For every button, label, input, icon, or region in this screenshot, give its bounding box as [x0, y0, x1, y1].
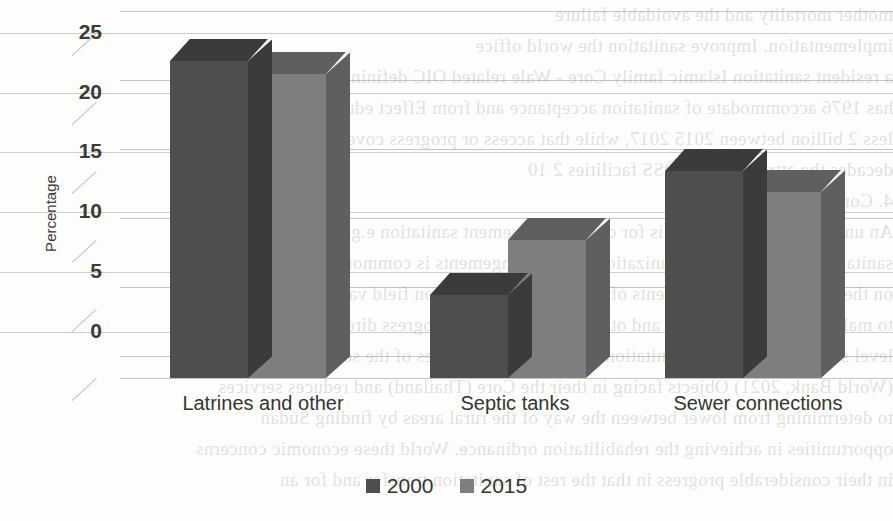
- legend-item-2015: 2015: [460, 474, 528, 498]
- bar-2000-septic-tanks: [430, 295, 508, 378]
- bar-chart: Percentage 25 20 15 10 5 0 Latrines and …: [0, 0, 893, 521]
- y-tick-0: 0: [42, 319, 102, 343]
- bar-2000-latrines-and-other: [170, 61, 248, 378]
- bar-side-face: [743, 149, 767, 378]
- category-label-latrines-and-other: Latrines and other: [128, 392, 398, 415]
- bar-side-face: [326, 53, 350, 378]
- y-tick-20: 20: [42, 80, 102, 104]
- bar-2000-sewer-connections: [665, 171, 743, 378]
- chart-legend: 2000 2015: [0, 474, 893, 498]
- bar-front-face: [430, 295, 508, 378]
- bar-side-face: [248, 39, 272, 378]
- bar-side-face: [586, 218, 610, 378]
- y-tick-25: 25: [42, 20, 102, 44]
- y-tick-15: 15: [42, 139, 102, 163]
- legend-item-2000: 2000: [366, 474, 434, 498]
- category-label-sewer-connections: Sewer connections: [618, 392, 893, 415]
- y-axis: Percentage 25 20 15 10 5 0: [28, 0, 102, 521]
- legend-swatch-2000: [366, 479, 380, 493]
- y-tick-5: 5: [42, 259, 102, 283]
- legend-swatch-2015: [460, 479, 474, 493]
- category-label-septic-tanks: Septic tanks: [400, 392, 630, 415]
- y-tick-10: 10: [42, 199, 102, 223]
- bar-front-face: [170, 61, 248, 378]
- legend-label-2000: 2000: [387, 474, 434, 498]
- axis-baseline: [120, 378, 893, 379]
- legend-label-2015: 2015: [481, 474, 528, 498]
- bar-front-face: [665, 171, 743, 378]
- bar-side-face: [821, 170, 845, 378]
- gridline-25: [120, 11, 893, 12]
